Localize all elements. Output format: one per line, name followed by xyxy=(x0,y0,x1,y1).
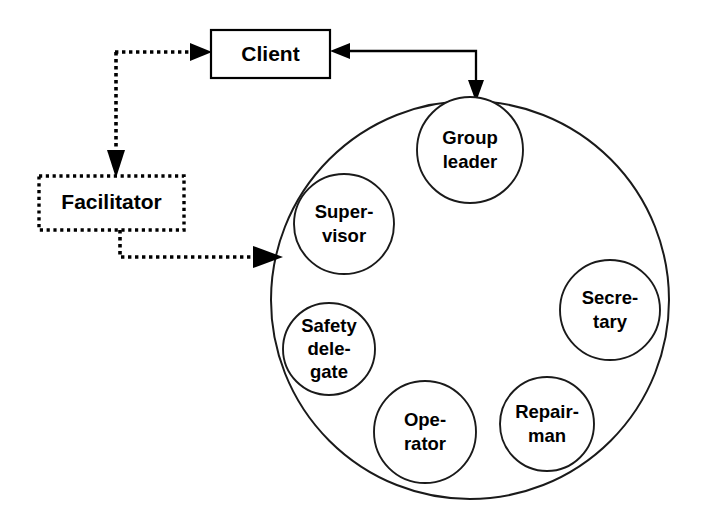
repairman-label-line1: Repair- xyxy=(515,401,579,422)
facilitator-label: Facilitator xyxy=(61,190,161,213)
arrow-head-into-facilitator xyxy=(107,150,125,178)
secretary-label-line2: tary xyxy=(593,311,628,332)
facilitator-node[interactable]: Facilitator xyxy=(39,176,184,230)
connector-facilitator-to-group[interactable] xyxy=(120,230,283,268)
connector-link-to-facilitator[interactable] xyxy=(107,52,125,178)
operator-label-line1: Ope- xyxy=(404,409,446,430)
repairman-label-line2: man xyxy=(528,425,566,446)
group-leader-label-line2: leader xyxy=(443,151,498,172)
role-node-operator[interactable]: Ope- rator xyxy=(374,381,476,483)
role-node-group-leader[interactable]: Group leader xyxy=(417,97,523,203)
secretary-label-line1: Secre- xyxy=(582,287,639,308)
diagram-canvas: Client Facilitator Group leader Super- v… xyxy=(0,0,702,525)
client-node[interactable]: Client xyxy=(211,30,330,78)
connector-facilitator-to-group-line xyxy=(120,230,256,257)
arrow-head-into-client xyxy=(330,43,350,59)
client-label: Client xyxy=(241,42,299,65)
operator-label-line2: rator xyxy=(404,433,446,454)
connector-group-to-client-line xyxy=(340,51,476,87)
role-node-repairman[interactable]: Repair- man xyxy=(500,377,594,471)
safety-delegate-label-line2: dele- xyxy=(307,338,350,359)
role-node-supervisor[interactable]: Super- visor xyxy=(294,174,394,274)
safety-delegate-label-line3: gate xyxy=(310,361,348,382)
safety-delegate-label-line1: Safety xyxy=(301,315,357,336)
supervisor-label-line1: Super- xyxy=(315,201,374,222)
role-diagram: Client Facilitator Group leader Super- v… xyxy=(0,0,702,525)
connector-group-to-client[interactable] xyxy=(330,43,484,102)
role-node-safety-delegate[interactable]: Safety dele- gate xyxy=(283,303,375,395)
supervisor-label-line2: visor xyxy=(322,225,366,246)
role-node-secretary[interactable]: Secre- tary xyxy=(560,260,660,360)
arrow-head-dashed-into-client xyxy=(190,43,212,61)
group-leader-label-line1: Group xyxy=(442,127,498,148)
connector-facilitator-to-client[interactable] xyxy=(115,43,212,61)
